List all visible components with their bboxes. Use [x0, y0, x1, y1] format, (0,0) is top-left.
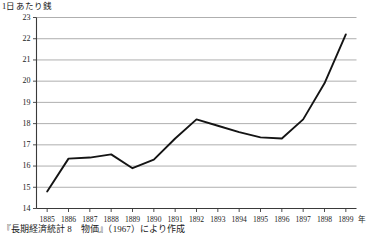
gridlines — [37, 18, 357, 188]
x-tick-label: 1895 — [253, 215, 268, 224]
x-tick-label: 1898 — [317, 215, 332, 224]
x-tick-label: 1888 — [104, 215, 119, 224]
x-tick-label: 1890 — [146, 215, 161, 224]
x-tick-label: 1892 — [189, 215, 204, 224]
data-line-series-1 — [47, 34, 346, 191]
y-tick-label: 18 — [23, 119, 31, 128]
y-tick-label: 20 — [23, 76, 31, 85]
x-tick-label: 1894 — [232, 215, 247, 224]
x-axis-ticks: 1885188618871888188918901891189218931894… — [40, 209, 354, 224]
x-tick-label: 1899 — [338, 215, 353, 224]
x-tick-label: 1889 — [125, 215, 140, 224]
y-tick-label: 19 — [23, 98, 31, 107]
x-tick-label: 1885 — [40, 215, 55, 224]
x-tick-label: 1897 — [296, 215, 311, 224]
figure-caption: 『長期経済統計 8 物価』（1967）により作成 — [2, 224, 185, 235]
y-tick-label: 21 — [23, 55, 31, 64]
y-tick-label: 15 — [23, 183, 31, 192]
y-tick-label: 14 — [23, 204, 31, 213]
chart-figure: 1日あたり銭 14151617181920212223 188518861887… — [0, 0, 373, 237]
chart-svg: 14151617181920212223 1885188618871888188… — [0, 0, 373, 237]
y-tick-label: 23 — [23, 13, 31, 22]
y-tick-label: 22 — [23, 34, 31, 43]
x-tick-label: 1887 — [82, 215, 97, 224]
x-tick-label: 1891 — [168, 215, 183, 224]
plot-area: 14151617181920212223 1885188618871888188… — [0, 0, 373, 237]
x-tick-label: 1886 — [61, 215, 76, 224]
x-axis-unit-label: 年 — [358, 214, 366, 224]
y-axis-ticks: 14151617181920212223 — [23, 13, 37, 213]
x-tick-label: 1893 — [210, 215, 225, 224]
y-tick-label: 17 — [23, 140, 31, 149]
y-tick-label: 16 — [23, 161, 31, 170]
x-tick-label: 1896 — [274, 215, 289, 224]
